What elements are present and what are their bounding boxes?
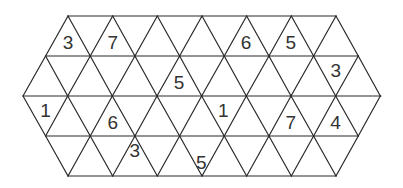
clue-number: 5 <box>174 72 185 93</box>
triangle-grid-board: 3765531617435 <box>0 0 403 188</box>
clue-number: 3 <box>331 60 342 81</box>
clue-number: 1 <box>218 100 229 121</box>
clue-number: 6 <box>241 32 252 53</box>
clue-number: 5 <box>286 32 297 53</box>
clue-number: 6 <box>107 112 118 133</box>
clue-number: 5 <box>196 152 207 173</box>
clue-number: 3 <box>63 32 74 53</box>
clue-number: 7 <box>286 112 297 133</box>
clue-number: 1 <box>40 100 51 121</box>
clue-number: 3 <box>130 140 141 161</box>
clue-number: 4 <box>330 112 341 133</box>
clue-number: 7 <box>107 32 118 53</box>
